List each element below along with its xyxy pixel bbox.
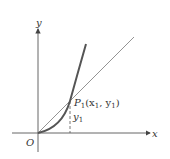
secant-line	[38, 37, 134, 133]
y-axis-label: y	[35, 17, 42, 28]
tangent-diagram: y x O P1(x1, y1) y1	[0, 0, 170, 159]
x-axis-label: x	[152, 128, 158, 139]
point-label: P1(x1, y1)	[73, 97, 120, 110]
ordinate-label: y1	[72, 111, 83, 124]
origin-label: O	[26, 137, 34, 148]
